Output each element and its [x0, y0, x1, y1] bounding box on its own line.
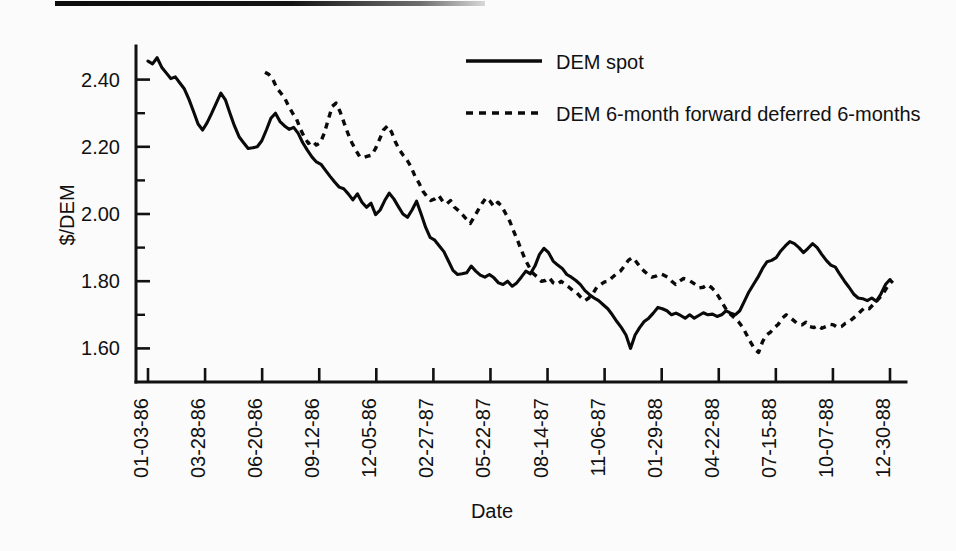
y-tick-label: 2.40 — [81, 69, 120, 91]
x-tick-label: 11-06-87 — [587, 398, 609, 477]
chart-axes — [136, 46, 906, 382]
y-tick-label: 1.60 — [81, 337, 120, 359]
x-tick-label: 09-12-86 — [301, 398, 323, 478]
x-tick-label: 06-20-86 — [244, 398, 266, 478]
y-tick-label: 2.20 — [81, 136, 120, 158]
y-tick-label: 1.80 — [81, 270, 120, 292]
x-tick-label: 12-05-86 — [358, 398, 380, 478]
y-tick-label: 2.00 — [81, 203, 120, 225]
x-axis-tick-labels: 01-03-8603-28-8606-20-8609-12-8612-05-86… — [130, 398, 894, 478]
chart-page: 1.601.802.002.202.40 01-03-8603-28-8606-… — [0, 0, 956, 551]
x-tick-label: 05-22-87 — [472, 398, 494, 478]
legend-label-dem-forward: DEM 6-month forward deferred 6-months — [556, 103, 921, 125]
x-tick-label: 01-03-86 — [130, 398, 152, 478]
x-tick-label: 10-07-88 — [815, 398, 837, 478]
x-tick-label: 04-22-88 — [701, 398, 723, 478]
x-tick-label: 07-15-88 — [758, 398, 780, 478]
x-tick-label: 03-28-86 — [187, 398, 209, 478]
series-line-dem-spot — [148, 58, 890, 349]
legend-label-dem-spot: DEM spot — [556, 51, 644, 73]
x-tick-label: 02-27-87 — [415, 398, 437, 478]
x-tick-label: 01-29-88 — [644, 398, 666, 478]
y-axis-title: $/DEM — [56, 184, 78, 245]
x-tick-label: 08-14-87 — [530, 398, 552, 478]
x-axis-ticks — [148, 368, 890, 382]
chart-svg: 1.601.802.002.202.40 01-03-8603-28-8606-… — [0, 0, 956, 551]
y-axis-ticks — [136, 80, 150, 349]
x-tick-label: 12-30-88 — [872, 398, 894, 478]
y-axis-tick-labels: 1.601.802.002.202.40 — [81, 69, 120, 360]
line-chart: 1.601.802.002.202.40 01-03-8603-28-8606-… — [0, 0, 956, 551]
x-axis-title: Date — [471, 500, 513, 522]
chart-legend: DEM spot DEM 6-month forward deferred 6-… — [466, 51, 921, 125]
